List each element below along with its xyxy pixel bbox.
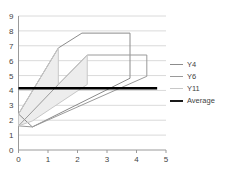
legend-item-y6[interactable]: Y6 <box>170 72 215 81</box>
legend-swatch-icon <box>170 100 183 102</box>
y-tick-label-9: 9 <box>9 12 14 21</box>
x-tick-label-0: 0 <box>16 155 21 164</box>
legend-item-y4[interactable]: Y4 <box>170 60 215 69</box>
y-tick-label-3: 3 <box>9 101 14 110</box>
y-tick-label-2: 2 <box>9 116 14 125</box>
x-tick-label-1: 1 <box>46 155 51 164</box>
legend-label: Y6 <box>187 72 196 81</box>
legend-swatch-icon <box>170 64 183 65</box>
x-tick-label-2: 2 <box>75 155 80 164</box>
y-tick-label-5: 5 <box>9 72 14 81</box>
chart-container: 0123450123456789 Y4Y6Y11Average <box>0 0 227 177</box>
x-tick-label-3: 3 <box>105 155 110 164</box>
y-tick-label-4: 4 <box>9 86 14 95</box>
y-tick-label-0: 0 <box>9 146 14 155</box>
legend-label: Y11 <box>187 84 200 93</box>
x-tick-label-4: 4 <box>134 155 139 164</box>
legend-label: Average <box>187 96 215 105</box>
legend-swatch-icon <box>170 88 183 89</box>
chart-legend: Y4Y6Y11Average <box>170 60 215 105</box>
legend-item-average[interactable]: Average <box>170 96 215 105</box>
x-tick-label-5: 5 <box>164 155 169 164</box>
y-tick-label-7: 7 <box>9 42 14 51</box>
legend-item-y11[interactable]: Y11 <box>170 84 215 93</box>
y-tick-label-6: 6 <box>9 57 14 66</box>
legend-swatch-icon <box>170 76 183 77</box>
legend-label: Y4 <box>187 60 196 69</box>
y-tick-label-1: 1 <box>9 131 14 140</box>
y-tick-label-8: 8 <box>9 27 14 36</box>
